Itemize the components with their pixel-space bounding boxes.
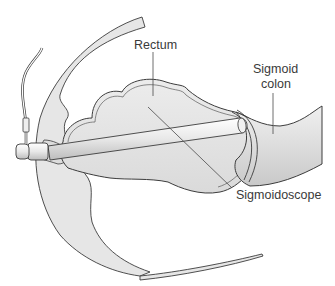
sigmoidoscopy-diagram: Rectum Sigmoid colon Sigmoidoscope: [0, 0, 335, 286]
sigmoid-colon: [235, 106, 322, 186]
label-rectum: Rectum: [134, 38, 177, 52]
label-sigmoid-colon-line2: colon: [261, 77, 291, 91]
sigmoidoscope-eyepiece: [16, 144, 29, 159]
label-sigmoid-colon-line1: Sigmoid: [253, 62, 298, 76]
sigmoidoscope-collar: [28, 143, 48, 160]
thigh-outline: [140, 254, 263, 280]
label-sigmoidoscope: Sigmoidoscope: [236, 188, 322, 202]
light-cable-connector: [23, 118, 29, 132]
